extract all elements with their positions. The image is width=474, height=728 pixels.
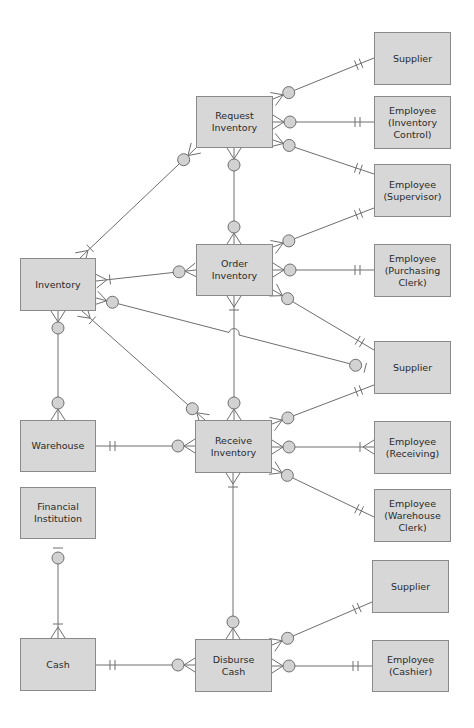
entity-supplier-3: Supplier (372, 560, 449, 613)
entity-employee-supervisor: Employee (Supervisor) (374, 164, 451, 217)
entity-receive-inventory: Receive Inventory (195, 420, 272, 473)
entity-employee-cashier: Employee (Cashier) (372, 640, 449, 692)
entity-supplier-1: Supplier (374, 32, 451, 85)
entity-warehouse: Warehouse (20, 420, 96, 472)
entity-financial-institution: Financial Institution (20, 487, 96, 539)
entity-disburse-cash: Disburse Cash (195, 639, 272, 692)
entity-inventory: Inventory (20, 258, 96, 311)
entity-request-inventory: Request Inventory (196, 96, 273, 148)
entity-employee-receiving: Employee (Receiving) (374, 421, 451, 474)
entity-supplier-2: Supplier (374, 341, 451, 394)
er-diagram-canvas: Supplier Request Inventory Employee (Inv… (0, 0, 474, 728)
entity-order-inventory: Order Inventory (196, 244, 273, 296)
entity-cash: Cash (20, 638, 96, 691)
entity-employee-warehouse-clerk: Employee (Warehouse Clerk) (374, 489, 451, 542)
entity-employee-inventory-control: Employee (Inventory Control) (374, 96, 451, 149)
entity-employee-purchasing-clerk: Employee (Purchasing Clerk) (374, 244, 451, 297)
